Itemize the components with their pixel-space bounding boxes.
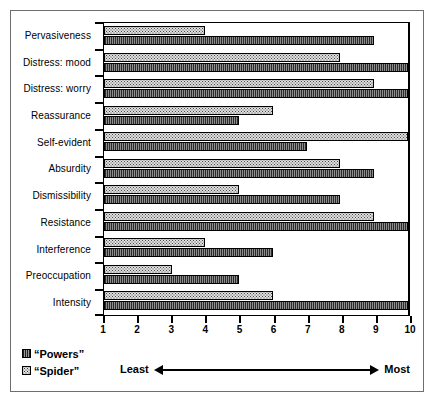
least-label: Least [120,363,149,375]
bar-powers [104,142,307,151]
bar-powers [104,169,374,178]
bar-group [104,235,408,262]
x-tick-label: 3 [168,324,174,336]
x-tick [137,316,139,323]
legend-swatch-powers-icon [22,349,31,358]
bar-powers [104,301,408,310]
y-tick [95,22,103,24]
y-tick [95,262,103,264]
x-tick [274,316,276,323]
arrow-line [162,369,372,371]
bar-spider [104,159,340,168]
y-tick [95,236,103,238]
y-axis-label-self-evident: Self-evident [37,137,91,148]
x-tick [410,316,412,323]
y-axis-row: Distress: mood [10,49,103,76]
x-tick-label: 8 [339,324,345,336]
y-tick [95,102,103,104]
x-tick [342,316,344,323]
scale-direction-note: Least Most [120,360,410,378]
y-tick [95,49,103,51]
bar-group [104,288,408,315]
bar-powers [104,222,408,231]
bar-group [104,182,408,209]
bar-group [104,103,408,130]
bar-group [104,50,408,77]
y-axis-row: Pervasiveness [10,22,103,49]
bar-powers [104,195,340,204]
x-axis: 12345678910 [103,316,412,340]
y-tick [95,75,103,77]
bar-spider [104,265,172,274]
bar-group [104,156,408,183]
bar-spider [104,185,239,194]
y-tick [95,182,103,184]
bar-group [104,262,408,289]
x-tick [103,316,105,323]
y-axis-label-preoccupation: Preoccupation [26,270,91,281]
bar-group [104,76,408,103]
bar-spider [104,106,273,115]
y-axis: Pervasiveness Distress: mood Distress: w… [10,22,103,316]
bar-group [104,209,408,236]
y-tick [95,129,103,131]
bar-powers [104,116,239,125]
y-axis-label-resistance: Resistance [41,217,91,228]
y-axis-label-reassurance: Reassurance [31,110,91,121]
x-tick-label: 6 [271,324,277,336]
bar-powers [104,248,273,257]
legend-label-spider: “Spider” [34,365,79,377]
y-axis-row: Reassurance [10,102,103,129]
bar-powers [104,36,374,45]
bar-spider [104,79,374,88]
bar-spider [104,238,205,247]
y-tick [95,314,103,316]
bar-spider [104,53,340,62]
x-tick [171,316,173,323]
bar-group [104,23,408,50]
bar-spider [104,291,273,300]
arrow-right-head-icon [370,365,379,375]
most-label: Most [384,363,410,375]
bar-powers [104,63,408,72]
bar-powers [104,89,408,98]
bar-spider [104,132,408,141]
y-axis-label-interference: Interference [36,244,91,255]
chart-figure: Pervasiveness Distress: mood Distress: w… [0,0,434,408]
x-tick-label: 10 [404,324,415,336]
y-axis-row: Distress: worry [10,75,103,102]
x-tick-label: 4 [203,324,209,336]
x-tick-label: 7 [305,324,311,336]
y-axis-row: Self-evident [10,129,103,156]
x-tick-label: 1 [100,324,106,336]
y-axis-label-distress-mood: Distress: mood [23,57,91,68]
x-tick [308,316,310,323]
bar-spider [104,26,205,35]
y-axis-label-intensity: Intensity [53,297,91,308]
y-axis-row: Absurdity [10,156,103,183]
legend-swatch-spider-icon [22,366,31,375]
y-axis-label-absurdity: Absurdity [48,163,91,174]
bar-spider [104,212,374,221]
bar-group [104,129,408,156]
y-axis-row: Preoccupation [10,262,103,289]
x-tick-label: 5 [237,324,243,336]
y-axis-row: Resistance [10,209,103,236]
y-tick [95,209,103,211]
y-tick [95,289,103,291]
y-axis-row: Dismissibility [10,182,103,209]
y-axis-row: Interference [10,236,103,263]
double-arrow-icon [154,364,380,375]
x-tick [239,316,241,323]
y-axis-label-dismissibility: Dismissibility [32,190,91,201]
y-axis-label-pervasiveness: Pervasiveness [25,30,91,41]
y-axis-row: Intensity [10,289,103,316]
legend-label-powers: “Powers” [34,348,84,360]
y-tick [95,156,103,158]
caption-strip [118,400,418,408]
x-tick [376,316,378,323]
x-tick [205,316,207,323]
x-tick-label: 2 [134,324,140,336]
x-tick-label: 9 [373,324,379,336]
plot-area [103,22,410,316]
